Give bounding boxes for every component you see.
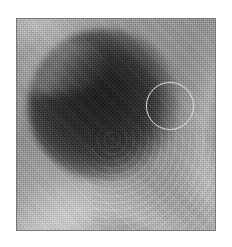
circle-marker-annotation — [146, 82, 194, 130]
image-plate — [16, 18, 216, 231]
page-root: Grayscale halftone image of a rounded ca… — [0, 0, 232, 247]
plate-description: Grayscale halftone image of a rounded ca… — [0, 0, 1, 1]
lower-right-striations — [92, 129, 216, 231]
